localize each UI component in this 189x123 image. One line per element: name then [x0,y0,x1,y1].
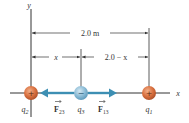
charge-q2-sign: + [28,89,35,98]
charge-q1: + [142,86,156,100]
svg-text:F13: F13 [98,105,109,115]
x-distance-label: x [53,53,58,62]
force-f13-label: F13 [98,100,109,115]
charge-q3-label: q3 [78,105,85,115]
force-f23-label: F23 [54,100,65,115]
total-distance-label: 2.0 m [81,29,100,38]
charge-q2-label: q2 [22,105,29,115]
remaining-distance-label: 2.0 − x [105,53,128,62]
charge-q3: − [74,86,88,100]
x-axis-label: x [175,89,180,98]
charge-diagram: y x 2.0 m x 2.0 − x + − + q2 q3 q1 F23 [0,0,189,123]
y-axis-label: y [26,1,31,10]
charge-q1-label: q1 [146,105,153,115]
charge-q3-sign: − [78,89,85,98]
svg-text:F23: F23 [54,105,65,115]
charge-q1-sign: + [146,89,153,98]
force-arrow-f13 [88,89,117,98]
charge-q2: + [24,86,38,100]
force-arrow-f23 [40,89,74,98]
